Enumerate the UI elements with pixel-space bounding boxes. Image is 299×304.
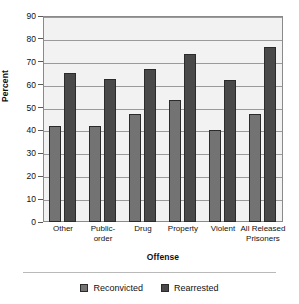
y-tick-30: 30 (27, 148, 43, 158)
x-tick-label-5: All ReleasedPrisoners (234, 224, 292, 244)
y-tick-label: 40 (27, 125, 36, 135)
y-tick-label: 80 (27, 34, 36, 44)
y-tick-label: 20 (27, 171, 36, 181)
bar-reconvicted-5[interactable] (249, 114, 261, 222)
legend-label: Reconvicted (93, 283, 143, 293)
bar-group (43, 16, 83, 222)
bar-rearrested-3[interactable] (184, 54, 196, 222)
bar-reconvicted-3[interactable] (169, 100, 181, 222)
y-tick-10: 10 (27, 194, 43, 204)
bar-group (163, 16, 203, 222)
bar-rearrested-5[interactable] (264, 47, 276, 222)
y-tick-label: 30 (27, 148, 36, 158)
y-tick-label: 10 (27, 194, 36, 204)
chart-legend: ReconvictedRearrested (23, 281, 276, 295)
bar-rearrested-4[interactable] (224, 80, 236, 222)
bar-group (203, 16, 243, 222)
bar-group (123, 16, 163, 222)
legend-swatch-icon (80, 284, 88, 292)
bar-reconvicted-1[interactable] (89, 126, 101, 222)
y-axis-title: Percent (0, 88, 10, 102)
x-tick-label-line: All Released (234, 224, 292, 234)
y-tick-60: 60 (27, 80, 43, 90)
y-tick-label: 50 (27, 103, 36, 113)
bar-rearrested-1[interactable] (104, 79, 116, 222)
y-tick-80: 80 (27, 34, 43, 44)
y-tick-label: 60 (27, 80, 36, 90)
y-tick-90: 90 (27, 11, 43, 21)
y-axis-tick-labels: 0102030405060708090 (16, 16, 43, 222)
y-tick-label: 70 (27, 57, 36, 67)
x-tick-label-line: Prisoners (234, 234, 292, 244)
bar-group (243, 16, 283, 222)
legend-entry-reconvicted[interactable]: Reconvicted (80, 283, 143, 293)
bar-rearrested-2[interactable] (144, 69, 156, 222)
y-tick-20: 20 (27, 171, 43, 181)
x-axis-tick-labels: OtherPublic-orderDrugPropertyViolentAll … (43, 224, 283, 254)
x-axis-title: Offense (43, 252, 283, 262)
legend-divider (23, 272, 276, 273)
y-tick-label: 90 (27, 11, 36, 21)
y-tick-50: 50 (27, 103, 43, 113)
bars-layer (43, 16, 283, 222)
bar-reconvicted-2[interactable] (129, 114, 141, 222)
legend-swatch-icon (161, 284, 169, 292)
bar-reconvicted-0[interactable] (49, 126, 61, 222)
bar-chart-figure: Percent 0102030405060708090 OtherPublic-… (0, 0, 299, 304)
bar-group (83, 16, 123, 222)
bar-reconvicted-4[interactable] (209, 130, 221, 222)
legend-label: Rearrested (174, 283, 219, 293)
y-tick-70: 70 (27, 57, 43, 67)
y-tick-40: 40 (27, 125, 43, 135)
legend-entry-rearrested[interactable]: Rearrested (161, 283, 219, 293)
x-tick-label-line: order (74, 234, 132, 244)
bar-rearrested-0[interactable] (64, 73, 76, 222)
